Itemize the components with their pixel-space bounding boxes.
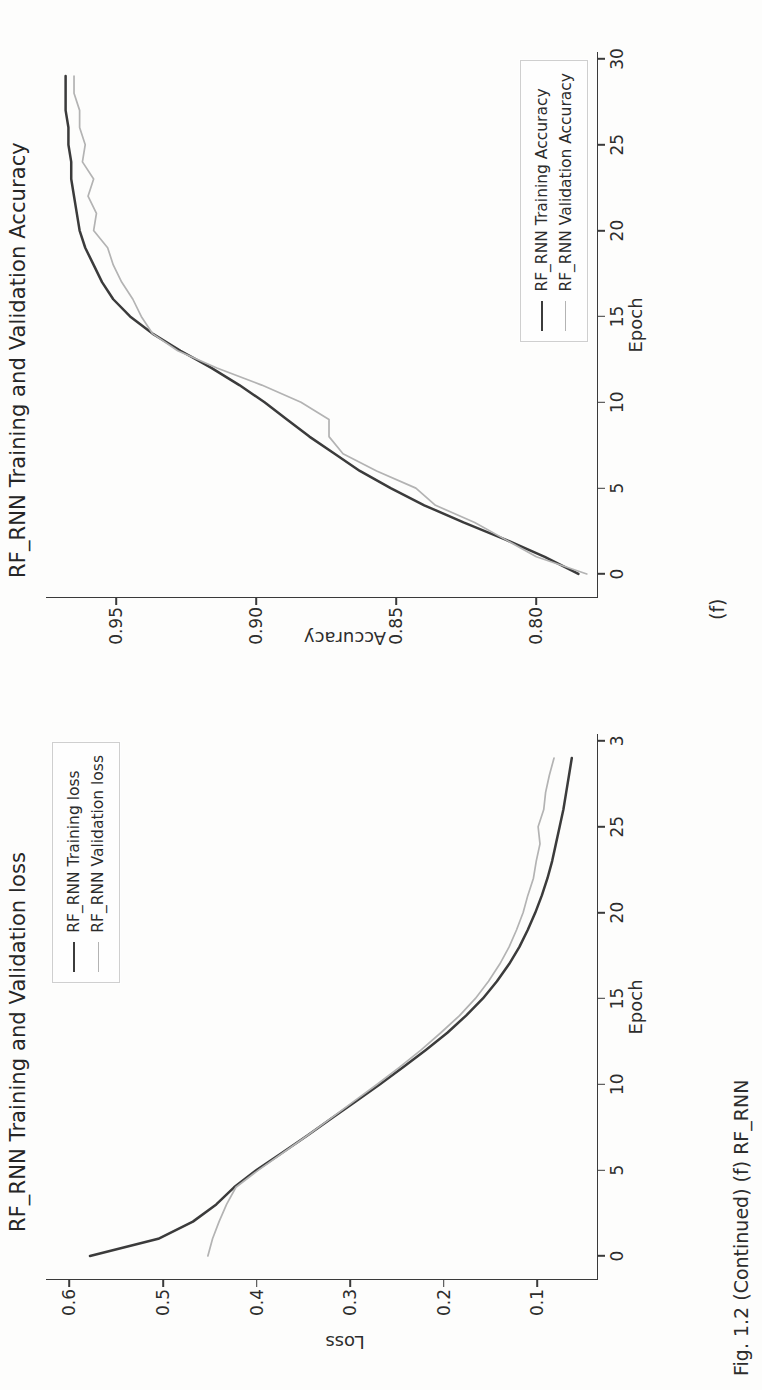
x-tick-mark bbox=[598, 58, 605, 60]
x-tick-label: 0 bbox=[607, 569, 627, 580]
y-tick-mark bbox=[255, 598, 257, 605]
legend-label-training: RF_RNN Training Accuracy bbox=[530, 88, 554, 291]
x-tick-label: 10 bbox=[607, 1073, 627, 1095]
legend-swatch-training bbox=[541, 301, 543, 331]
x-tick-label: 15 bbox=[607, 988, 627, 1010]
y-tick-label: 0.6 bbox=[59, 1289, 79, 1316]
legend-entry-training: RF_RNN Training loss bbox=[62, 755, 86, 972]
loss-curves bbox=[46, 734, 598, 1280]
y-tick-mark bbox=[536, 1280, 538, 1287]
loss-x-axis-label: Epoch bbox=[625, 734, 646, 1280]
y-tick-mark bbox=[69, 1280, 71, 1287]
accuracy-chart-title: RF_RNN Training and Validation Accuracy bbox=[6, 26, 30, 694]
y-tick-label: 0.90 bbox=[246, 607, 266, 645]
x-tick-label: 20 bbox=[607, 220, 627, 242]
loss-legend: RF_RNN Training loss RF_RNN Validation l… bbox=[52, 742, 120, 983]
x-tick-label: 15 bbox=[607, 306, 627, 328]
legend-entry-training: RF_RNN Training Accuracy bbox=[530, 73, 554, 331]
x-tick-mark bbox=[598, 1255, 605, 1257]
y-tick-label: 0.80 bbox=[526, 607, 546, 645]
y-tick-label: 0.5 bbox=[153, 1289, 173, 1316]
figure-row: RF_RNN Training and Validation loss Loss… bbox=[0, 0, 700, 1390]
legend-label-validation: RF_RNN Validation loss bbox=[86, 755, 110, 933]
x-tick-mark bbox=[598, 487, 605, 489]
x-tick-mark bbox=[598, 826, 605, 828]
accuracy-plot-wrapper: 0.950.900.850.80 051015202530 RF_RNN Tra… bbox=[46, 52, 598, 598]
y-tick-mark bbox=[349, 1280, 351, 1287]
accuracy-y-axis-label: Accuracy bbox=[304, 628, 386, 649]
y-tick-mark bbox=[115, 598, 117, 605]
x-tick-mark bbox=[598, 1083, 605, 1085]
accuracy-x-axis-label: Epoch bbox=[625, 52, 646, 598]
x-tick-label: 10 bbox=[607, 391, 627, 413]
x-tick-label: 25 bbox=[607, 816, 627, 838]
y-tick-mark bbox=[395, 598, 397, 605]
loss-y-axis-label: Loss bbox=[325, 1332, 364, 1353]
loss-chart-title: RF_RNN Training and Validation loss bbox=[6, 708, 30, 1376]
loss-chart-panel: RF_RNN Training and Validation loss Loss… bbox=[0, 708, 690, 1376]
legend-label-validation: RF_RNN Validation Accuracy bbox=[554, 73, 578, 292]
x-tick-mark bbox=[598, 230, 605, 232]
legend-swatch-validation bbox=[98, 942, 99, 972]
y-tick-label: 0.4 bbox=[247, 1289, 267, 1316]
legend-swatch-validation bbox=[565, 301, 566, 331]
y-tick-label: 0.85 bbox=[386, 607, 406, 645]
y-tick-label: 0.95 bbox=[106, 607, 126, 645]
subfigure-label: (f) bbox=[706, 598, 728, 620]
x-tick-mark bbox=[598, 573, 605, 575]
legend-label-training: RF_RNN Training loss bbox=[62, 770, 86, 932]
y-tick-label: 0.2 bbox=[434, 1289, 454, 1316]
y-tick-label: 0.1 bbox=[527, 1289, 547, 1316]
x-tick-label: 25 bbox=[607, 134, 627, 156]
series-line bbox=[74, 76, 587, 574]
x-tick-label: 30 bbox=[607, 48, 627, 70]
y-tick-label: 0.3 bbox=[340, 1289, 360, 1316]
x-tick-label: 3 bbox=[607, 735, 627, 746]
x-tick-mark bbox=[598, 998, 605, 1000]
x-tick-mark bbox=[598, 912, 605, 914]
x-tick-mark bbox=[598, 144, 605, 146]
legend-entry-validation: RF_RNN Validation loss bbox=[86, 755, 110, 972]
figure-page: RF_RNN Training and Validation loss Loss… bbox=[0, 0, 762, 1390]
x-tick-label: 5 bbox=[607, 1165, 627, 1176]
x-tick-mark bbox=[598, 401, 605, 403]
x-tick-label: 5 bbox=[607, 483, 627, 494]
x-tick-mark bbox=[598, 740, 605, 742]
legend-swatch-training bbox=[73, 942, 75, 972]
x-tick-mark bbox=[598, 1169, 605, 1171]
series-line bbox=[66, 76, 579, 574]
loss-plot-wrapper: 0.60.50.40.30.20.1 05101520253 RF_RNN Tr… bbox=[46, 734, 598, 1280]
accuracy-curves bbox=[46, 52, 598, 598]
loss-plot-area bbox=[46, 734, 598, 1280]
legend-entry-validation: RF_RNN Validation Accuracy bbox=[554, 73, 578, 331]
x-tick-label: 20 bbox=[607, 902, 627, 924]
accuracy-plot-area bbox=[46, 52, 598, 598]
y-tick-mark bbox=[443, 1280, 445, 1287]
series-line bbox=[90, 758, 572, 1256]
y-tick-mark bbox=[162, 1280, 164, 1287]
accuracy-legend: RF_RNN Training Accuracy RF_RNN Validati… bbox=[520, 60, 588, 342]
accuracy-chart-panel: RF_RNN Training and Validation Accuracy … bbox=[0, 26, 690, 694]
x-tick-label: 0 bbox=[607, 1251, 627, 1262]
figure-caption: Fig. 1.2 (Continued) (f) RF_RNN bbox=[730, 1080, 752, 1376]
y-tick-mark bbox=[256, 1280, 258, 1287]
series-line bbox=[208, 758, 554, 1256]
x-tick-mark bbox=[598, 316, 605, 318]
y-tick-mark bbox=[536, 598, 538, 605]
